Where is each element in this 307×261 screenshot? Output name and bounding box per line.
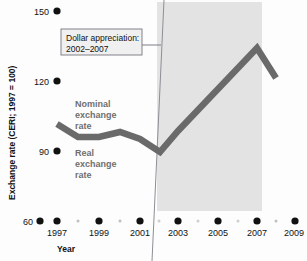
chart-canvas: Exchange rate (CERI; 1997 = 100) 150 120…	[0, 0, 307, 261]
x-tick-dot-2005	[214, 217, 221, 224]
callout-label-line-2: 2002–2007	[66, 44, 109, 54]
real-series-label-line-1: Real	[75, 148, 94, 158]
x-tick-label-1997: 1997	[47, 228, 67, 238]
x-minor-tick-dot-2006	[237, 220, 240, 223]
x-minor-tick-dot-2008	[275, 220, 278, 223]
x-minor-tick-dot-2002	[158, 220, 161, 223]
x-tick-label-2001: 2001	[130, 228, 150, 238]
y-tick-dot-150	[53, 7, 60, 14]
y-tick-label-60: 60	[23, 217, 33, 227]
nominal-series-label-line-1: Nominal	[75, 99, 111, 109]
x-tick-label-2005: 2005	[208, 228, 228, 238]
x-minor-tick-dot-2004	[197, 220, 200, 223]
x-tick-dot-1999	[95, 217, 102, 224]
y-tick-dot-120	[53, 77, 60, 84]
x-tick-label-2009: 2009	[284, 228, 304, 238]
shaded-region-dollar-appreciation	[157, 2, 262, 211]
y-tick-dot-60	[36, 217, 43, 224]
x-tick-dot-1997	[53, 217, 60, 224]
x-axis-title: Year	[57, 244, 76, 254]
y-tick-dot-90	[53, 147, 60, 154]
x-tick-dot-2009	[291, 217, 298, 224]
callout-label-line-1: Dollar appreciation:	[66, 33, 139, 43]
x-tick-dot-2001	[136, 217, 143, 224]
exchange-rate-chart: Exchange rate (CERI; 1997 = 100) 150 120…	[0, 0, 307, 261]
y-tick-label-120: 120	[34, 77, 49, 87]
x-tick-dot-2007	[253, 217, 260, 224]
x-tick-label-2007: 2007	[247, 228, 267, 238]
y-axis-title: Exchange rate (CERI; 1997 = 100)	[7, 65, 17, 200]
nominal-series-label-line-3: rate	[75, 121, 92, 131]
nominal-series-label-line-2: exchange	[75, 110, 117, 120]
y-tick-label-150: 150	[34, 7, 49, 17]
x-tick-label-1999: 1999	[89, 228, 109, 238]
x-tick-label-2003: 2003	[168, 228, 188, 238]
real-series-label-line-2: exchange	[75, 159, 117, 169]
x-tick-dot-2003	[174, 217, 181, 224]
x-minor-tick-dot-2000	[119, 220, 122, 223]
x-minor-tick-dot-1998	[77, 220, 80, 223]
real-series-label-line-3: rate	[75, 170, 92, 180]
y-tick-label-90: 90	[39, 147, 49, 157]
